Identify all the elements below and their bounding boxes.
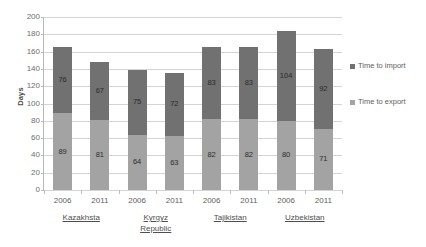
bar-segment-export[interactable]: 64 (128, 135, 147, 190)
legend-item[interactable]: Time to export (350, 98, 426, 106)
legend-swatch-icon (350, 100, 355, 105)
stacked-bar[interactable]: 8976 (53, 47, 72, 190)
bar-value-label-export: 82 (202, 151, 221, 159)
bar-segment-export[interactable]: 89 (53, 113, 72, 190)
legend-label: Time to export (358, 98, 406, 106)
bar-segment-import[interactable]: 67 (90, 62, 109, 120)
legend-item[interactable]: Time to import (350, 62, 426, 70)
stacked-bar[interactable]: 8167 (90, 62, 109, 190)
bars-layer: 897681676475637282838283801047192 (44, 17, 342, 190)
country-label: Uzbekistan (268, 212, 343, 223)
bar-segment-import[interactable]: 75 (128, 70, 147, 135)
y-tick-label: 40 (6, 151, 40, 159)
x-tick-label: 2011 (156, 196, 193, 205)
x-tick-mark (156, 190, 157, 194)
x-tick-mark (193, 190, 194, 194)
x-tick-label: 2006 (193, 196, 230, 205)
bar-value-label-export: 82 (239, 151, 258, 159)
bar-value-label-import: 104 (277, 72, 296, 80)
country-label-line: Uzbekistan (268, 212, 343, 223)
bar-value-label-import: 76 (53, 76, 72, 84)
bar-segment-import[interactable]: 104 (277, 31, 296, 121)
stacked-bar[interactable]: 6372 (165, 73, 184, 190)
y-axis-ticks: 200180160140120100806040200 (0, 17, 40, 190)
y-tick-label: 120 (6, 82, 40, 90)
bar-segment-export[interactable]: 71 (314, 129, 333, 190)
stacked-bar[interactable]: 7192 (314, 49, 333, 190)
x-tick-mark (268, 190, 269, 194)
x-tick-label: 2011 (305, 196, 342, 205)
bar-group: 80104 (277, 17, 296, 190)
stacked-bar[interactable]: 6475 (128, 70, 147, 190)
country-group-labels: KazakhstaKyrgyzRepublicTajikistanUzbekis… (44, 212, 342, 246)
x-tick-mark (342, 190, 343, 194)
y-tick-label: 160 (6, 48, 40, 56)
bar-group: 6475 (128, 17, 147, 190)
stacked-bar-chart: Days 200180160140120100806040200 8976816… (0, 0, 426, 247)
country-label-line: Tajikistan (193, 212, 268, 223)
chart-legend: Time to importTime to export (350, 62, 426, 134)
bar-value-label-export: 89 (53, 148, 72, 156)
country-label-line: Kyrgyz (119, 212, 194, 223)
bar-value-label-import: 83 (202, 79, 221, 87)
bar-value-label-import: 83 (239, 79, 258, 87)
y-tick-label: 0 (6, 186, 40, 194)
bar-segment-export[interactable]: 80 (277, 121, 296, 190)
bar-group: 6372 (165, 17, 184, 190)
country-label: KyrgyzRepublic (119, 212, 194, 234)
bar-segment-import[interactable]: 83 (202, 47, 221, 119)
stacked-bar[interactable]: 8283 (202, 47, 221, 190)
bar-value-label-export: 80 (277, 151, 296, 159)
country-label: Kazakhsta (44, 212, 119, 223)
y-tick-label: 60 (6, 134, 40, 142)
bar-segment-export[interactable]: 82 (202, 119, 221, 190)
y-tick-label: 100 (6, 100, 40, 108)
x-tick-mark (230, 190, 231, 194)
bar-value-label-import: 72 (165, 100, 184, 108)
legend-swatch-icon (350, 64, 355, 69)
y-tick-label: 180 (6, 30, 40, 38)
x-tick-label: 2011 (81, 196, 118, 205)
stacked-bar[interactable]: 8283 (239, 47, 258, 190)
bar-segment-export[interactable]: 63 (165, 136, 184, 190)
x-tick-mark (305, 190, 306, 194)
bar-segment-export[interactable]: 82 (239, 119, 258, 190)
country-label-line: Republic (119, 223, 194, 234)
x-tick-label: 2006 (119, 196, 156, 205)
bar-value-label-import: 92 (314, 85, 333, 93)
y-tick-label: 200 (6, 13, 40, 21)
y-tick-label: 20 (6, 169, 40, 177)
bar-segment-import[interactable]: 92 (314, 49, 333, 129)
x-tick-mark (81, 190, 82, 194)
bar-group: 7192 (314, 17, 333, 190)
x-tick-mark (44, 190, 45, 194)
bar-group: 8283 (202, 17, 221, 190)
bar-value-label-export: 63 (165, 159, 184, 167)
x-tick-mark (119, 190, 120, 194)
x-tick-label: 2006 (268, 196, 305, 205)
bar-segment-import[interactable]: 72 (165, 73, 184, 135)
bar-value-label-import: 75 (128, 98, 147, 106)
x-tick-label: 2006 (44, 196, 81, 205)
bar-value-label-export: 64 (128, 158, 147, 166)
x-tick-label: 2011 (230, 196, 267, 205)
country-label-line: Kazakhsta (44, 212, 119, 223)
bar-segment-import[interactable]: 76 (53, 47, 72, 113)
legend-label: Time to import (358, 62, 406, 70)
bar-value-label-export: 71 (314, 155, 333, 163)
bar-value-label-export: 81 (90, 151, 109, 159)
bar-group: 8283 (239, 17, 258, 190)
x-axis-labels: 20062011200620112006201120062011 (44, 196, 342, 208)
y-tick-label: 140 (6, 65, 40, 73)
bar-group: 8167 (90, 17, 109, 190)
bar-value-label-import: 67 (90, 87, 109, 95)
bar-group: 8976 (53, 17, 72, 190)
bar-segment-export[interactable]: 81 (90, 120, 109, 190)
bar-segment-import[interactable]: 83 (239, 47, 258, 119)
y-tick-label: 80 (6, 117, 40, 125)
stacked-bar[interactable]: 80104 (277, 31, 296, 190)
country-label: Tajikistan (193, 212, 268, 223)
